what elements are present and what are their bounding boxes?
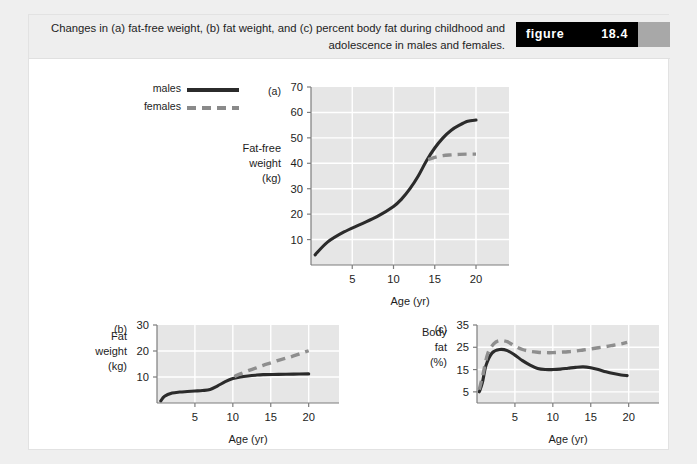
figure-caption: Changes in (a) fat-free weight, (b) fat … bbox=[39, 20, 505, 53]
y-axis-title-line: Fat-free bbox=[242, 142, 281, 154]
chart-panel-c-body-fat: 51525355101520Age (yr)Bodyfat(%)(c) bbox=[389, 315, 689, 464]
y-tick-label: 10 bbox=[291, 234, 303, 246]
y-tick-label: 25 bbox=[457, 341, 469, 353]
caption-bar: Changes in (a) fat-free weight, (b) fat … bbox=[29, 15, 670, 59]
chart-panel-b-fat-weight: 1020305101520Age (yr)Fatweight(kg)(b) bbox=[69, 315, 369, 464]
y-tick-label: 35 bbox=[457, 319, 469, 331]
y-tick-label: 30 bbox=[137, 319, 149, 331]
y-tick-label: 15 bbox=[457, 364, 469, 376]
panel-label-b: (b) bbox=[114, 323, 127, 335]
y-tick-label: 50 bbox=[291, 132, 303, 144]
chart-b-svg: 1020305101520Age (yr)Fatweight(kg)(b) bbox=[69, 315, 369, 464]
y-tick-label: 5 bbox=[463, 386, 469, 398]
y-axis-title: Fat-freeweight(kg) bbox=[242, 142, 281, 184]
y-axis-title-line: weight bbox=[94, 345, 127, 357]
x-tick-label: 20 bbox=[470, 273, 482, 285]
y-tick-label: 20 bbox=[291, 208, 303, 220]
x-tick-label: 15 bbox=[265, 411, 277, 423]
y-axis-title-line: (kg) bbox=[262, 172, 281, 184]
y-tick-label: 40 bbox=[291, 157, 303, 169]
y-tick-label: 10 bbox=[137, 371, 149, 383]
x-tick-label: 20 bbox=[302, 411, 314, 423]
legend-label-males: males bbox=[153, 82, 181, 94]
legend-label-females: females bbox=[144, 100, 181, 112]
x-tick-label: 5 bbox=[192, 411, 198, 423]
figure-badge-number: 18.4 bbox=[601, 27, 628, 41]
y-tick-label: 70 bbox=[291, 81, 303, 93]
chart-a-svg: 102030405060705101520Age (yr)Fat-freewei… bbox=[219, 77, 549, 307]
x-axis-title: Age (yr) bbox=[548, 433, 587, 445]
x-axis-title: Age (yr) bbox=[390, 295, 429, 307]
x-tick-label: 20 bbox=[622, 411, 634, 423]
x-tick-label: 10 bbox=[387, 273, 399, 285]
panel-label-c: (c) bbox=[435, 323, 447, 335]
plot-background bbox=[311, 87, 509, 265]
x-axis-title: Age (yr) bbox=[228, 433, 267, 445]
chart-legend: males females bbox=[89, 81, 239, 117]
chart-c-svg: 51525355101520Age (yr)Bodyfat(%)(c) bbox=[389, 315, 689, 464]
y-tick-label: 60 bbox=[291, 106, 303, 118]
figure-badge-tab bbox=[638, 22, 670, 47]
legend-item-males: males bbox=[89, 81, 239, 99]
x-tick-label: 10 bbox=[227, 411, 239, 423]
figure-badge: figure 18.4 bbox=[516, 22, 638, 47]
x-tick-label: 5 bbox=[349, 273, 355, 285]
x-tick-label: 15 bbox=[585, 411, 597, 423]
y-tick-label: 30 bbox=[291, 183, 303, 195]
figure-badge-word: figure bbox=[526, 27, 564, 41]
x-tick-label: 5 bbox=[512, 411, 518, 423]
panel-label-a: (a) bbox=[268, 85, 281, 97]
y-axis-title-line: fat bbox=[435, 341, 447, 353]
legend-item-females: females bbox=[89, 99, 239, 117]
y-axis-title: Fatweight(kg) bbox=[94, 330, 127, 372]
y-tick-label: 20 bbox=[137, 345, 149, 357]
x-tick-label: 15 bbox=[429, 273, 441, 285]
y-axis-title-line: weight bbox=[248, 157, 281, 169]
y-axis-title-line: (kg) bbox=[108, 360, 127, 372]
figure-card: Changes in (a) fat-free weight, (b) fat … bbox=[28, 14, 669, 450]
chart-panel-a-fat-free-weight: 102030405060705101520Age (yr)Fat-freewei… bbox=[219, 77, 549, 307]
y-axis-title-line: (%) bbox=[430, 356, 447, 368]
x-tick-label: 10 bbox=[547, 411, 559, 423]
